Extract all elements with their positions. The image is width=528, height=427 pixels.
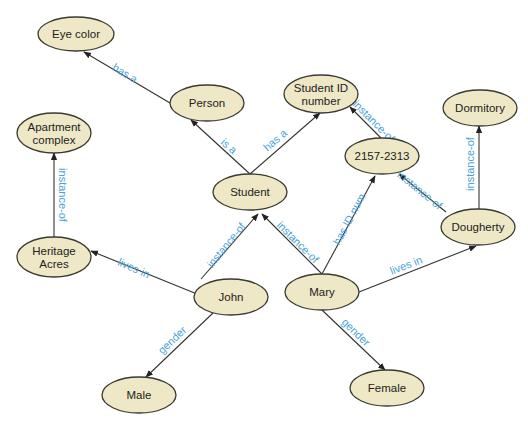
node-mary: Mary [285,274,359,310]
edge-arrow [359,246,476,292]
node-label: Dormitory [455,102,505,114]
edge-label: instance-of [57,168,69,223]
node-label: John [219,291,244,303]
edge-label: has a [110,61,140,86]
edge-mary-to-dougherty: lives in [359,246,476,292]
node-label: Student [230,186,270,198]
edge-mary-to-student: instance-of [262,214,322,274]
node-label: Apartment [27,121,81,133]
edge-student-to-person: is a [191,120,250,174]
nodes-layer: Eye colorPersonApartmentcomplexStudent I… [17,17,517,413]
edge-student-to-student-id-number: has a [250,113,320,174]
node-label: 2157-2313 [355,150,410,162]
node-label: Heritage [32,245,75,257]
node-label: Eye color [52,28,100,40]
edge-arrow [146,313,213,377]
node-label: Female [368,382,406,394]
node-student: Student [213,174,287,210]
node-dormitory: Dormitory [443,90,517,126]
edge-dougherty-to-dormitory: instance-of [464,126,479,209]
edge-arrow [322,310,385,370]
edge-john-to-male: gender [146,313,213,377]
node-male: Male [102,377,176,413]
edge-person-to-eye-color: has a [84,52,170,103]
node-label: Dougherty [451,221,504,233]
edge-label: instance-of [275,219,322,266]
edge-john-to-heritage-acres: lives in [91,251,197,294]
node-label: Person [189,97,225,109]
node-heritage-acres: HeritageAcres [17,237,91,277]
node-apartment-complex: Apartmentcomplex [17,113,91,153]
edge-arrow [191,120,250,174]
node-label: Student ID [294,82,348,94]
node-id-value: 2157-2313 [345,138,419,174]
edge-john-to-student: instance-of [201,214,258,279]
node-student-id-number: Student IDnumber [284,75,358,113]
edge-label: is a [219,136,240,157]
edge-label: instance-of [204,220,248,270]
edge-mary-to-female: gender [322,310,385,370]
node-john: John [194,279,268,315]
node-label: Male [127,389,152,401]
edge-label: instance-of [464,136,476,191]
node-label: Mary [309,286,335,298]
edge-label: instance-of [395,168,445,212]
semantic-network-diagram: has ais ahas ainstance-ofinstance-ofinst… [0,0,528,427]
node-eye-color: Eye color [38,17,114,51]
edges-layer: has ais ahas ainstance-ofinstance-ofinst… [54,52,479,377]
edge-heritage-acres-to-apartment-complex: instance-of [54,153,69,237]
edge-dougherty-to-id-value: instance-of [395,168,446,212]
node-female: Female [350,370,424,406]
node-label: number [302,95,341,107]
node-label: complex [33,134,76,146]
node-dougherty: Dougherty [441,209,515,245]
node-label: Acres [39,258,69,270]
node-person: Person [170,85,244,121]
edge-label: has a [261,126,290,153]
edge-label: has ID num [330,191,367,246]
edge-label: lives in [116,256,152,281]
edge-mary-to-id-value: has ID num [322,176,375,274]
